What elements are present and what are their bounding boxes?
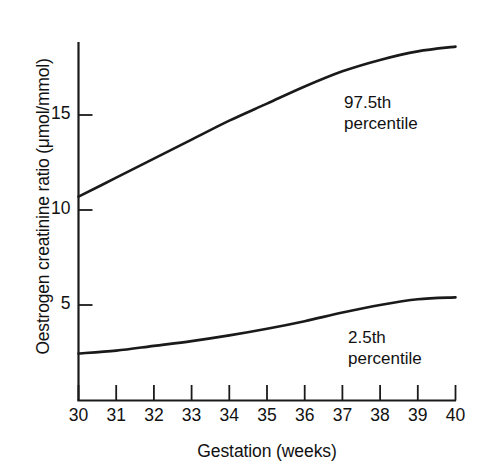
- annotation-line: percentile: [344, 113, 418, 134]
- upper-annotation: 97.5thpercentile: [344, 92, 418, 134]
- chart-canvas: [0, 0, 479, 475]
- x-tick-label: 34: [209, 405, 249, 426]
- y-tick-label: 15: [31, 103, 71, 124]
- x-tick-label: 39: [398, 405, 438, 426]
- y-tick-marks: [79, 115, 93, 305]
- x-tick-label: 38: [360, 405, 400, 426]
- x-tick-label: 36: [285, 405, 325, 426]
- chart-figure: Oestrogen creatinine ratio (μmol/mmol) G…: [0, 0, 479, 475]
- x-tick-label: 37: [322, 405, 362, 426]
- annotation-line: 2.5th: [348, 327, 422, 348]
- x-axis-label: Gestation (weeks): [78, 441, 456, 462]
- y-tick-label: 10: [31, 198, 71, 219]
- y-tick-label: 5: [31, 293, 71, 314]
- x-tick-label: 32: [134, 405, 174, 426]
- x-tick-label: 40: [436, 405, 476, 426]
- x-tick-label: 33: [172, 405, 212, 426]
- x-tick-marks: [79, 385, 456, 401]
- annotation-line: 97.5th: [344, 92, 418, 113]
- lower-annotation: 2.5thpercentile: [348, 327, 422, 369]
- annotation-line: percentile: [348, 348, 422, 369]
- x-tick-label: 35: [247, 405, 287, 426]
- x-tick-label: 30: [59, 405, 99, 426]
- x-tick-label: 31: [96, 405, 136, 426]
